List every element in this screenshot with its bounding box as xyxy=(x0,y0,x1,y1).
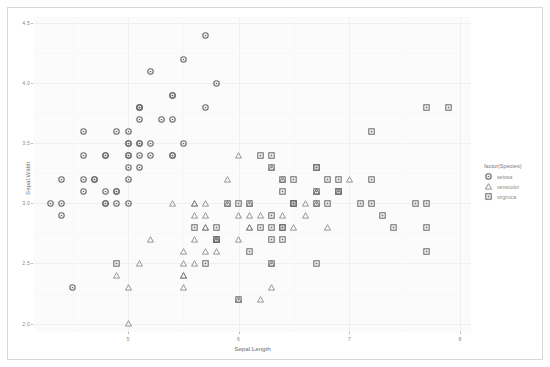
x-tick-label: 8 xyxy=(450,336,470,342)
gridline-vertical-minor xyxy=(73,17,74,332)
y-tick-mark xyxy=(31,143,33,144)
x-tick-label: 5 xyxy=(118,336,138,342)
y-tick-mark xyxy=(31,324,33,325)
legend-key-circle-icon xyxy=(484,172,493,181)
y-tick-label: 2.0 xyxy=(14,321,30,327)
y-tick-label: 4.5 xyxy=(14,20,30,26)
x-tick-mark xyxy=(460,332,461,334)
y-tick-label: 2.5 xyxy=(14,260,30,266)
y-tick-mark xyxy=(31,23,33,24)
y-tick-mark xyxy=(31,83,33,84)
gridline-vertical-minor xyxy=(294,17,295,332)
x-tick-label: 7 xyxy=(339,336,359,342)
scatter-plot-figure: 2.02.53.03.54.04.5 5678 Sepal.Length Sep… xyxy=(0,0,550,367)
y-tick-label: 3.0 xyxy=(14,200,30,206)
gridline-vertical xyxy=(239,17,240,332)
gridline-horizontal-minor xyxy=(34,294,471,295)
gridline-horizontal-minor xyxy=(34,173,471,174)
x-tick-mark xyxy=(128,332,129,334)
x-tick-mark xyxy=(239,332,240,334)
gridline-vertical xyxy=(128,17,129,332)
legend: factor(Species) setosaversicolorvirginic… xyxy=(484,163,546,202)
y-tick-mark xyxy=(31,203,33,204)
legend-label: virginica xyxy=(497,194,516,200)
gridline-horizontal-minor xyxy=(34,53,471,54)
plot-panel xyxy=(34,17,471,332)
x-tick-label: 6 xyxy=(229,336,249,342)
legend-key-triangle-icon xyxy=(484,182,493,191)
legend-label: versicolor xyxy=(497,184,519,190)
x-tick-mark xyxy=(349,332,350,334)
gridline-vertical xyxy=(460,17,461,332)
legend-title: factor(Species) xyxy=(484,163,546,169)
x-axis-title: Sepal.Length xyxy=(34,345,471,352)
legend-item-setosa[interactable]: setosa xyxy=(484,172,546,181)
legend-entries: setosaversicolorvirginica xyxy=(484,172,546,201)
gridline-horizontal-minor xyxy=(34,113,471,114)
gridline-vertical-minor xyxy=(183,17,184,332)
y-tick-label: 3.5 xyxy=(14,140,30,146)
y-tick-label: 4.0 xyxy=(14,80,30,86)
gridline-vertical xyxy=(349,17,350,332)
legend-key-square-icon xyxy=(484,192,493,201)
y-tick-mark xyxy=(31,263,33,264)
y-axis-title: Sepal.Width xyxy=(24,162,31,195)
legend-label: setosa xyxy=(497,174,512,180)
legend-item-virginica[interactable]: virginica xyxy=(484,192,546,201)
legend-item-versicolor[interactable]: versicolor xyxy=(484,182,546,191)
gridline-horizontal-minor xyxy=(34,233,471,234)
gridline-vertical-minor xyxy=(405,17,406,332)
